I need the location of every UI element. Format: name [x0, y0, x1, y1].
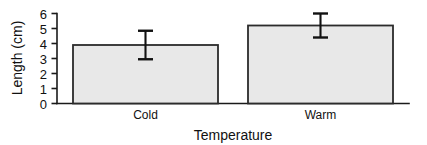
y-tick-label-3: 3 — [40, 52, 47, 67]
x-tick-label-warm: Warm — [305, 108, 337, 122]
y-axis-tick-labels: 6 5 4 3 2 1 0 — [40, 7, 47, 112]
y-tick-label-0: 0 — [40, 97, 47, 112]
x-axis-title: Temperature — [194, 127, 273, 143]
y-tick-label-6: 6 — [40, 7, 47, 22]
y-tick-label-4: 4 — [40, 37, 47, 52]
y-tick-label-2: 2 — [40, 67, 47, 82]
x-tick-label-cold: Cold — [133, 108, 158, 122]
y-axis-title: Length (cm) — [9, 21, 25, 96]
y-tick-label-1: 1 — [40, 82, 47, 97]
y-tick-label-5: 5 — [40, 22, 47, 37]
chart-canvas: 6 5 4 3 2 1 0 Cold Warm Temperature — [0, 0, 427, 145]
bar-chart-figure: 6 5 4 3 2 1 0 Cold Warm Temperature — [0, 0, 427, 145]
